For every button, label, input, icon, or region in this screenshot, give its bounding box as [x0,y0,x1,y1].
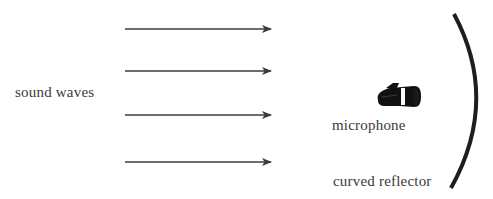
microphone-icon [378,83,421,107]
sound-wave-arrows [125,29,271,162]
curved-reflector-arc [451,14,476,188]
curved-reflector-label: curved reflector [333,173,432,190]
microphone-label: microphone [332,117,406,134]
sound-waves-label: sound waves [15,84,94,101]
